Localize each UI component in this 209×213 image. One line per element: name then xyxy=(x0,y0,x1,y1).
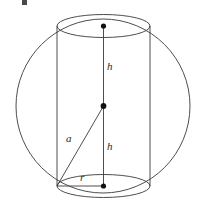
label-h-lower: h xyxy=(107,141,113,152)
figure-canvas xyxy=(0,0,209,213)
sphere-center-dot xyxy=(101,103,107,109)
bottom-center-dot xyxy=(101,183,106,188)
geometry-figure: h h a r xyxy=(0,0,209,213)
label-h-upper: h xyxy=(107,61,113,72)
label-a: a xyxy=(66,133,72,144)
top-center-dot xyxy=(101,23,106,28)
label-r: r xyxy=(80,172,84,183)
